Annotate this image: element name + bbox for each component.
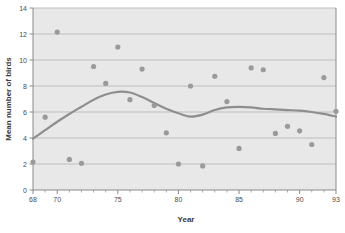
data-point xyxy=(261,67,266,72)
x-tick-label: 68 xyxy=(29,196,37,203)
data-point xyxy=(285,124,290,129)
y-tick-label: 10 xyxy=(19,57,27,64)
data-point xyxy=(127,97,132,102)
data-point xyxy=(200,163,205,168)
data-point xyxy=(103,81,108,86)
x-tick-label: 70 xyxy=(53,196,61,203)
y-tick-label: 14 xyxy=(19,5,27,12)
data-point xyxy=(43,115,48,120)
x-tick-label: 85 xyxy=(235,196,243,203)
y-axis-tick-labels: 02468101214 xyxy=(19,5,27,194)
data-point xyxy=(212,74,217,79)
data-point xyxy=(273,131,278,136)
data-point xyxy=(249,65,254,70)
data-point xyxy=(176,161,181,166)
chart-plot-area: 68707580859093 02468101214 Year Mean num… xyxy=(0,0,345,233)
data-point xyxy=(224,99,229,104)
data-point xyxy=(188,83,193,88)
data-point xyxy=(139,67,144,72)
x-axis-ticks xyxy=(33,190,336,194)
y-tick-label: 12 xyxy=(19,31,27,38)
y-axis-title: Mean number of birds xyxy=(4,57,13,141)
bird-population-chart: 68707580859093 02468101214 Year Mean num… xyxy=(0,0,345,233)
x-axis-tick-labels: 68707580859093 xyxy=(29,196,340,203)
x-tick-label: 90 xyxy=(296,196,304,203)
y-tick-label: 2 xyxy=(23,161,27,168)
data-point xyxy=(321,75,326,80)
data-point xyxy=(67,157,72,162)
data-point xyxy=(164,130,169,135)
data-point xyxy=(309,142,314,147)
y-tick-label: 0 xyxy=(23,187,27,194)
data-point xyxy=(115,44,120,49)
x-tick-label: 80 xyxy=(175,196,183,203)
x-tick-label: 75 xyxy=(114,196,122,203)
y-tick-label: 8 xyxy=(23,83,27,90)
data-point xyxy=(297,128,302,133)
data-point xyxy=(55,29,60,34)
data-point xyxy=(30,159,35,164)
y-tick-label: 4 xyxy=(23,135,27,142)
data-point xyxy=(91,64,96,69)
data-point xyxy=(333,109,338,114)
data-point xyxy=(236,146,241,151)
x-tick-label: 93 xyxy=(332,196,340,203)
y-tick-label: 6 xyxy=(23,109,27,116)
x-axis-title: Year xyxy=(178,215,195,224)
data-point xyxy=(152,103,157,108)
plot-background xyxy=(33,8,336,190)
data-point xyxy=(79,161,84,166)
